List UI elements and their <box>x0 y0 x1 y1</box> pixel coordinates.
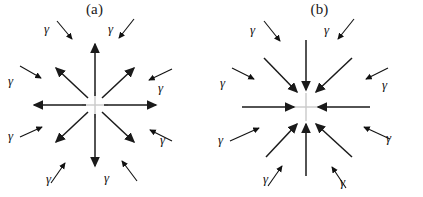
gamma-label-sw: γ <box>8 129 13 142</box>
gamma-arrow-e <box>149 69 172 80</box>
arrow-in-se <box>316 124 352 157</box>
arrow-in-ne <box>316 58 352 92</box>
gamma-arrows <box>230 19 390 188</box>
gamma-label-se: γ <box>160 133 165 146</box>
gamma-label-w: γ <box>8 74 13 87</box>
arrow-in-sw <box>266 124 297 157</box>
gamma-label-e: γ <box>382 78 387 91</box>
gamma-arrow-nw <box>264 21 280 41</box>
gamma-label-nw: γ <box>44 22 49 35</box>
gamma-arrow-sw <box>230 128 259 141</box>
arrow-out-se <box>102 112 134 142</box>
gamma-arrow-nw <box>57 21 72 39</box>
arrow-out-sw <box>56 112 88 142</box>
gamma-label-sse: γ <box>340 175 345 188</box>
gamma-label-nw: γ <box>250 23 255 36</box>
gamma-arrow-w <box>232 68 254 79</box>
gamma-label-se: γ <box>386 131 391 144</box>
arrow-in-nw <box>264 58 297 92</box>
gamma-arrow-ne <box>119 19 134 38</box>
gamma-arrow-ssw <box>51 163 65 183</box>
arrow-out-ne <box>102 68 134 98</box>
gamma-label-ne: γ <box>108 22 113 35</box>
gamma-label-ne: γ <box>324 23 329 36</box>
figure-container: (a) <box>0 0 423 197</box>
panel-a-diagram <box>0 0 211 197</box>
gamma-arrow-sw <box>20 127 42 137</box>
gamma-arrow-sse <box>122 161 137 181</box>
center-cross-marker <box>293 93 319 121</box>
gamma-arrow-w <box>20 66 41 78</box>
gamma-label-w: γ <box>220 76 225 89</box>
panel-b-diagram <box>212 0 423 197</box>
panel-a: (a) <box>0 0 211 197</box>
gamma-label-e: γ <box>158 81 163 94</box>
gamma-label-sw: γ <box>218 133 223 146</box>
gamma-arrow-ne <box>338 19 354 39</box>
gamma-label-ssw: γ <box>263 172 268 185</box>
gamma-label-sse: γ <box>104 171 109 184</box>
gamma-label-ssw: γ <box>46 172 51 185</box>
gamma-arrow-ssw <box>268 166 282 186</box>
panel-b: (b) <box>212 0 423 197</box>
arrow-out-nw <box>56 68 88 98</box>
gamma-arrows <box>20 19 172 183</box>
